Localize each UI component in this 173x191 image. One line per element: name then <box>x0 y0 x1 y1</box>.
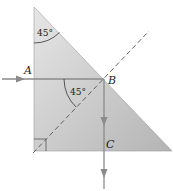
prism-diagram: 45° 45° A B C <box>0 0 173 191</box>
point-b-label: B <box>107 74 116 87</box>
apex-angle-label: 45° <box>37 28 53 38</box>
b-angle-label: 45° <box>70 87 86 97</box>
point-a-label: A <box>23 64 32 77</box>
point-c-label: C <box>106 138 115 151</box>
reflected-arrow-icon-2 <box>101 169 108 178</box>
